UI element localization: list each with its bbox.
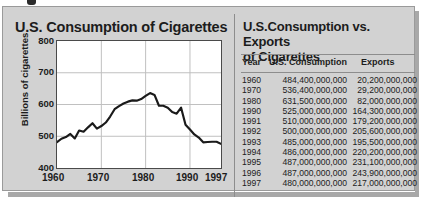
page-top-artifact: [27, 0, 36, 5]
column-header-exports: Exports: [361, 57, 395, 67]
cell-consumption: 480,000,000,000: [265, 178, 347, 188]
table-row: 1970536,400,000,00029,200,000,000: [241, 85, 416, 95]
table-row: 1990525,000,000,000164,300,000,000: [241, 106, 416, 116]
cell-year: 1991: [242, 116, 261, 126]
cell-exports: 231,100,000,000: [349, 157, 417, 167]
cell-consumption: 525,000,000,000: [265, 106, 347, 116]
table-title-line1: U.S.Consumption vs. Exports: [243, 19, 370, 49]
table-body: 1960484,400,000,00020,200,000,0001970536…: [241, 75, 416, 188]
column-header-consumption: U.S. Consumption: [269, 57, 347, 67]
cell-exports: 195,500,000,000: [349, 137, 417, 147]
table-row: 1994486,000,000,000220,200,000,000: [241, 147, 416, 157]
table-header-rule: [241, 72, 415, 73]
cell-year: 1996: [242, 168, 261, 178]
cell-exports: 82,000,000,000: [349, 96, 417, 106]
cell-year: 1992: [242, 126, 261, 136]
cell-year: 1994: [242, 147, 261, 157]
table-row: 1996487,000,000,000243,900,000,000: [241, 168, 416, 178]
table-row: 1993485,000,000,000195,500,000,000: [241, 137, 416, 147]
table-row: 1992500,000,000,000205,600,000,000: [241, 126, 416, 136]
cell-year: 1997: [242, 178, 261, 188]
x-tick-1990: 1990: [176, 172, 198, 183]
cell-year: 1990: [242, 106, 261, 116]
table-row: 1991510,000,000,000179,200,000,000: [241, 116, 416, 126]
cell-consumption: 500,000,000,000: [265, 126, 347, 136]
figure-page: U.S. Consumption of Cigarettes Billions …: [0, 0, 421, 204]
cell-exports: 220,200,000,000: [349, 147, 417, 157]
x-tick-1970: 1970: [87, 172, 109, 183]
chart-panel: U.S. Consumption of Cigarettes Billions …: [6, 14, 234, 197]
table-row: 1997480,000,000,000217,000,000,000: [241, 178, 416, 188]
cell-year: 1970: [242, 85, 261, 95]
cell-consumption: 536,400,000,000: [265, 85, 347, 95]
cell-consumption: 487,000,000,000: [265, 168, 347, 178]
cell-exports: 20,200,000,000: [349, 75, 417, 85]
figure-panel: U.S. Consumption of Cigarettes Billions …: [2, 6, 415, 191]
cell-exports: 179,200,000,000: [349, 116, 417, 126]
x-tick-1980: 1980: [132, 172, 154, 183]
table-panel: U.S.Consumption vs. Exports of Cigarette…: [237, 14, 418, 197]
cell-consumption: 484,400,000,000: [265, 75, 347, 85]
cell-year: 1980: [242, 96, 261, 106]
cell-consumption: 487,000,000,000: [265, 157, 347, 167]
cell-year: 1995: [242, 157, 261, 167]
cell-consumption: 485,000,000,000: [265, 137, 347, 147]
table-row: 1960484,400,000,00020,200,000,000: [241, 75, 416, 85]
cell-exports: 29,200,000,000: [349, 85, 417, 95]
x-tick-1997: 1997: [205, 172, 227, 183]
column-header-year: Year: [242, 57, 261, 67]
cell-consumption: 631,500,000,000: [265, 96, 347, 106]
cell-year: 1993: [242, 137, 261, 147]
cell-exports: 164,300,000,000: [349, 106, 417, 116]
cell-exports: 217,000,000,000: [349, 178, 417, 188]
table-row: 1995487,000,000,000231,100,000,000: [241, 157, 416, 167]
x-axis-ticks: 1960 1970 1980 1990 1997: [6, 14, 234, 197]
cell-year: 1960: [242, 75, 261, 85]
cell-consumption: 510,000,000,000: [265, 116, 347, 126]
x-tick-1960: 1960: [42, 172, 64, 183]
panel-divider: [234, 14, 235, 197]
cell-consumption: 486,000,000,000: [265, 147, 347, 157]
cell-exports: 205,600,000,000: [349, 126, 417, 136]
table-header-row: Year U.S. Consumption Exports: [241, 57, 416, 71]
table-rule-top: [241, 54, 415, 55]
cell-exports: 243,900,000,000: [349, 168, 417, 178]
table-row: 1980631,500,000,00082,000,000,000: [241, 96, 416, 106]
